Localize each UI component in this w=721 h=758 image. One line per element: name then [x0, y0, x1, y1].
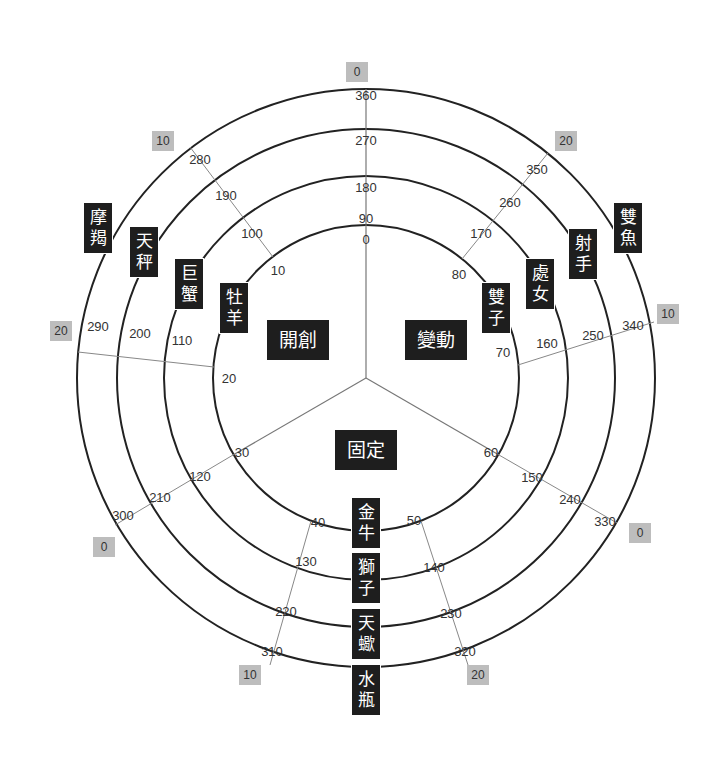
ring-label: 140 [423, 560, 445, 575]
ring-label: 80 [452, 267, 466, 282]
sign-libra: 天秤 [129, 226, 159, 278]
degree-box-upper-left: 10 [152, 131, 174, 151]
degree-box-lower-right: 0 [629, 523, 651, 543]
ring-label: 220 [275, 604, 297, 619]
sign-label: 雙子 [488, 287, 505, 328]
sign-label: 牡羊 [226, 287, 243, 328]
degree-box-bottom-right: 20 [467, 665, 489, 685]
mode-fixed: 固定 [335, 430, 397, 470]
sign-aquarius: 水瓶 [351, 664, 381, 716]
ring-label: 310 [261, 644, 283, 659]
ring-label: 300 [112, 508, 134, 523]
sign-gemini: 雙子 [481, 282, 511, 334]
ring-label: 280 [189, 152, 211, 167]
ring-label: 150 [521, 470, 543, 485]
ring-label: 330 [594, 514, 616, 529]
ring-label: 210 [149, 490, 171, 505]
ring-label: 160 [536, 336, 558, 351]
ring-label: 10 [271, 263, 285, 278]
ring-label: 110 [172, 333, 193, 348]
degree-box-lower-left: 0 [93, 537, 115, 557]
sign-cancer: 巨蟹 [174, 258, 204, 310]
sign-label: 天蠍 [358, 613, 375, 654]
sign-scorpio: 天蠍 [351, 608, 381, 660]
ring-label: 190 [215, 188, 237, 203]
degree-box-bottom-left: 10 [239, 665, 261, 685]
ring-label: 250 [582, 328, 604, 343]
ring-label: 40 [311, 515, 325, 530]
ring-label: 260 [499, 195, 521, 210]
sign-label: 處女 [532, 263, 549, 304]
ring-label: 20 [222, 371, 236, 386]
sign-virgo: 處女 [525, 258, 555, 310]
ring-label: 130 [295, 554, 317, 569]
ring-label: 230 [440, 606, 462, 621]
sign-capricorn: 摩羯 [83, 202, 113, 254]
sign-sagittarius: 射手 [568, 228, 598, 280]
sign-aries: 牡羊 [219, 282, 249, 334]
sign-label: 獅子 [358, 557, 375, 598]
spoke-left [78, 352, 214, 367]
ring-label: 360 [355, 88, 377, 103]
ring-label: 350 [526, 162, 548, 177]
sign-label: 水瓶 [358, 669, 375, 710]
sign-label: 巨蟹 [181, 263, 198, 304]
ring-label: 180 [355, 180, 377, 195]
ring-label: 0 [362, 232, 369, 247]
degree-box-top: 0 [346, 62, 368, 82]
ring-label: 170 [470, 226, 492, 241]
sign-label: 摩羯 [90, 207, 107, 248]
sign-label: 天秤 [136, 231, 153, 272]
sign-leo: 獅子 [351, 552, 381, 604]
ring-label: 240 [559, 492, 581, 507]
sign-label: 射手 [575, 233, 592, 274]
ring-label: 90 [359, 211, 373, 226]
mode-cardinal: 開創 [267, 320, 329, 360]
ring-label: 290 [87, 319, 109, 334]
ring-label: 200 [129, 326, 151, 341]
ring-label: 50 [407, 513, 421, 528]
ring-label: 270 [355, 133, 377, 148]
sign-label: 雙魚 [620, 207, 637, 248]
degree-box-upper-right: 20 [555, 131, 577, 151]
sign-pisces: 雙魚 [613, 202, 643, 254]
ring-label: 100 [241, 226, 263, 241]
ring-label: 320 [454, 644, 476, 659]
degree-box-right: 10 [657, 304, 679, 324]
ring-label: 120 [189, 469, 211, 484]
ring-label: 340 [622, 318, 644, 333]
mode-mutable: 變動 [405, 320, 467, 360]
ring-label: 60 [484, 445, 498, 460]
ring-label: 70 [496, 345, 510, 360]
ring-label: 30 [235, 445, 249, 460]
sign-taurus: 金牛 [351, 497, 381, 549]
sign-label: 金牛 [358, 502, 375, 543]
degree-box-left: 20 [50, 321, 72, 341]
